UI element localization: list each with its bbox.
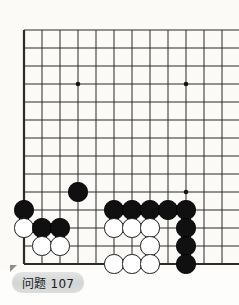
caption-bar: 问题 107 [0,265,239,305]
black-stone[interactable] [176,218,195,237]
black-stone[interactable] [122,200,141,219]
go-board-area[interactable] [0,0,239,270]
white-stone[interactable] [50,236,69,255]
white-stone[interactable] [14,218,33,237]
black-stone[interactable] [158,200,177,219]
black-stone[interactable] [50,218,69,237]
white-stone[interactable] [32,236,51,255]
black-stone[interactable] [104,200,123,219]
white-stone[interactable] [140,236,159,255]
black-stone[interactable] [14,200,33,219]
star-point [76,82,81,87]
black-stone[interactable] [68,182,87,201]
corner-triangle-icon [10,265,17,272]
white-stone[interactable] [104,218,123,237]
white-stone[interactable] [122,218,141,237]
go-problem-page: 问题 107 [0,0,239,305]
black-stone[interactable] [176,236,195,255]
problem-label-pill: 问题 107 [12,272,84,293]
star-point [184,190,189,195]
black-stone[interactable] [176,200,195,219]
black-stone[interactable] [140,200,159,219]
white-stone[interactable] [140,218,159,237]
problem-label-text: 问题 107 [22,274,75,291]
star-point [184,82,189,87]
black-stone[interactable] [32,218,51,237]
